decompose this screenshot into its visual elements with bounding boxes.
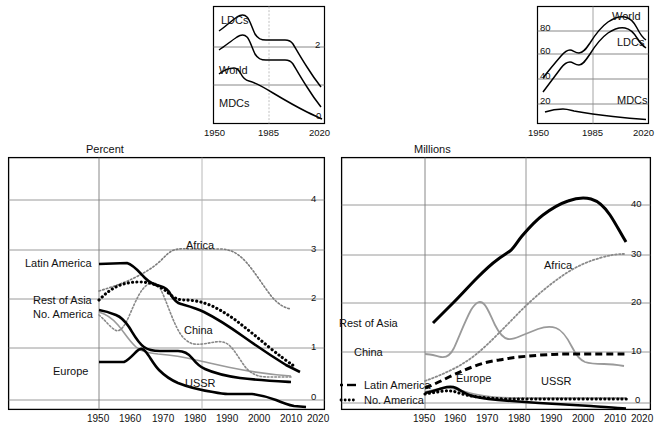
series-label-europe: Europe [53, 365, 88, 377]
series-label-world: World [219, 64, 248, 76]
xtick-1950: 1950 [204, 127, 225, 138]
xtick-1990: 1990 [216, 413, 238, 424]
top-right-plot [537, 6, 649, 124]
xtick-1950: 1950 [413, 413, 435, 424]
xtick-1960: 1960 [444, 413, 466, 424]
panel-bottom-right: 40 30 20 10 0 Rest of Asia Africa China … [341, 157, 651, 410]
ytick-2: 2 [315, 39, 320, 50]
xtick-2010: 2010 [280, 413, 302, 424]
series-label-mdcs: MDCs [617, 94, 648, 106]
series-label-africa: Africa [186, 239, 214, 251]
xtick-1980: 1980 [508, 413, 530, 424]
xtick-1970: 1970 [476, 413, 498, 424]
ytick-10: 10 [631, 345, 642, 356]
ytick-40: 40 [540, 70, 551, 81]
caption-millions: Millions [414, 143, 451, 155]
legend-item-latin-america: Latin America [339, 379, 431, 391]
xtick-1985: 1985 [582, 127, 603, 138]
xtick-2020: 2020 [631, 413, 653, 424]
xtick-2020: 2020 [633, 127, 654, 138]
ytick-40: 40 [631, 198, 642, 209]
legend-label-no-america: No. America [364, 394, 424, 406]
ytick-0: 0 [311, 391, 316, 402]
series-label-ldcs: LDCs [221, 14, 249, 26]
legend-label-latin-america: Latin America [364, 379, 431, 391]
xtick-2000: 2000 [572, 413, 594, 424]
plot-frame [342, 158, 651, 410]
ytick-2: 2 [311, 292, 316, 303]
ytick-0: 0 [316, 110, 321, 121]
panel-bottom-left: 4 3 2 1 0 Latin America Rest of Asia No.… [8, 157, 325, 410]
xtick-2020: 2020 [307, 413, 329, 424]
xtick-1950: 1950 [87, 413, 109, 424]
series-label-ussr: USSR [185, 377, 216, 389]
series-label-africa: Africa [544, 259, 572, 271]
xtick-2010: 2010 [604, 413, 626, 424]
ytick-20: 20 [631, 296, 642, 307]
series-label-china: China [354, 346, 383, 358]
xtick-1960: 1960 [119, 413, 141, 424]
xtick-1950: 1950 [528, 127, 549, 138]
caption-percent: Percent [86, 143, 124, 155]
ytick-80: 80 [540, 22, 551, 33]
legend-swatch-dash-dot [339, 380, 361, 390]
xtick-1985: 1985 [258, 127, 279, 138]
ytick-20: 20 [540, 95, 551, 106]
ytick-0: 0 [635, 394, 640, 405]
xtick-1980: 1980 [184, 413, 206, 424]
series-label-mdcs: MDCs [219, 97, 250, 109]
panel-top-left: LDCs World MDCs 2 0 1950 1985 2020 [213, 6, 325, 124]
series-label-china: China [184, 324, 213, 336]
series-label-europe: Europe [456, 372, 491, 384]
xtick-1970: 1970 [152, 413, 174, 424]
series-label-no-america: No. America [33, 308, 93, 320]
legend-item-no-america: No. America [339, 394, 424, 406]
series-label-rest-of-asia: Rest of Asia [339, 317, 398, 329]
series-label-world: World [612, 10, 641, 22]
ytick-4: 4 [311, 193, 316, 204]
ytick-1: 1 [311, 341, 316, 352]
ytick-3: 3 [311, 243, 316, 254]
bottom-right-plot [341, 157, 651, 410]
series-label-ussr: USSR [541, 375, 572, 387]
series-label-latin-america: Latin America [25, 257, 92, 269]
legend-swatch-dotted [339, 395, 361, 405]
xtick-1990: 1990 [540, 413, 562, 424]
xtick-2020: 2020 [309, 127, 330, 138]
panel-top-right: World LDCs MDCs 80 60 40 20 1950 1985 20… [537, 6, 649, 124]
series-label-rest-of-asia: Rest of Asia [33, 294, 92, 306]
ytick-60: 60 [540, 45, 551, 56]
ytick-30: 30 [631, 248, 642, 259]
series-label-ldcs: LDCs [617, 36, 645, 48]
xtick-2000: 2000 [248, 413, 270, 424]
